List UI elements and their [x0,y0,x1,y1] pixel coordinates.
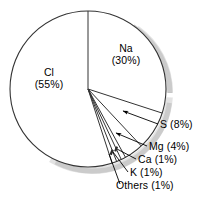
pie-slice-label-cl-value: (55%) [27,79,71,91]
pie-chart-graphic [0,0,203,198]
pie-chart-figure: Na (30%) Cl (55%) S (8%) Mg (4%) Ca (1%)… [0,0,203,198]
pie-callout-label-ca: Ca (1%) [138,154,177,166]
pie-slice-label-cl: Cl (55%) [27,67,71,90]
pie-slice-label-na-value: (30%) [104,55,148,67]
pie-callout-label-k: K (1%) [130,167,163,179]
pie-callout-label-s: S (8%) [160,119,193,131]
pie-callout-label-mg: Mg (4%) [149,141,189,153]
pie-slice-label-cl-name: Cl [27,67,71,79]
pie-slice-label-na-name: Na [104,43,148,55]
pie-slice-label-na: Na (30%) [104,43,148,66]
pie-callout-label-others: Others (1%) [116,180,174,192]
